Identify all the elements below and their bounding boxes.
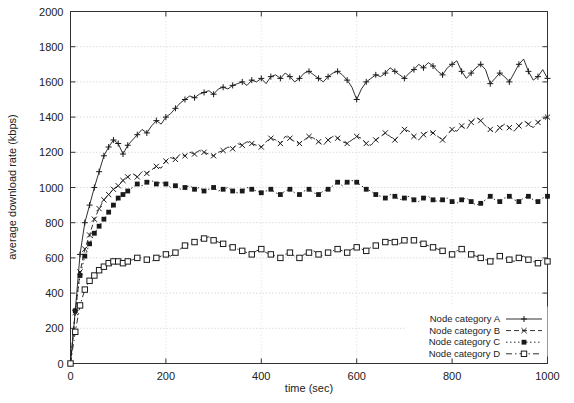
data-point-marker (297, 192, 302, 197)
data-point-marker (192, 187, 197, 192)
data-point-marker (278, 192, 283, 197)
x-tick-label: 1000 (535, 370, 559, 382)
data-point-marker (202, 189, 207, 194)
x-tick-label: 200 (157, 370, 175, 382)
data-point-marker (478, 201, 483, 206)
data-point-marker (287, 250, 292, 255)
data-point-marker (173, 250, 178, 255)
data-point-marker (536, 199, 541, 204)
legend-label-2: Node category B (429, 325, 500, 336)
data-point-marker (288, 187, 293, 192)
data-point-marker (249, 252, 254, 257)
legend-label-1: Node category A (430, 313, 501, 324)
x-tick-label: 800 (443, 370, 461, 382)
data-point-marker (325, 250, 330, 255)
y-tick-label: 200 (45, 322, 63, 334)
y-tick-label: 1400 (39, 111, 63, 123)
data-point-marker (354, 180, 359, 185)
data-point-marker (497, 199, 502, 204)
legend-sample-marker-4 (521, 351, 526, 356)
data-point-marker (278, 255, 283, 260)
y-tick-label: 800 (45, 217, 63, 229)
data-point-marker (468, 252, 473, 257)
legend-sample-marker-3 (522, 340, 527, 345)
data-point-marker (144, 180, 149, 185)
x-tick-label: 400 (252, 370, 270, 382)
data-point-marker (192, 239, 197, 244)
x-axis-title: time (sec) (285, 382, 333, 394)
data-point-marker (364, 187, 369, 192)
data-point-marker (344, 250, 349, 255)
data-point-marker (164, 182, 169, 187)
data-point-marker (411, 238, 416, 243)
data-point-marker (154, 255, 159, 260)
data-point-marker (430, 245, 435, 250)
data-point-marker (459, 246, 464, 251)
data-point-marker (488, 194, 493, 199)
data-point-marker (183, 185, 188, 190)
data-point-marker (516, 199, 521, 204)
data-point-marker (421, 196, 426, 201)
data-point-marker (392, 194, 397, 199)
data-point-marker (230, 245, 235, 250)
data-point-marker (73, 308, 78, 313)
data-point-marker (125, 259, 130, 264)
y-tick-label: 1000 (39, 182, 63, 194)
legend-label-4: Node category D (429, 348, 500, 359)
data-point-marker (121, 192, 126, 197)
data-point-marker (154, 182, 159, 187)
data-point-marker (307, 187, 312, 192)
data-point-marker (440, 248, 445, 253)
data-point-marker (268, 187, 273, 192)
data-point-marker (354, 245, 359, 250)
data-point-marker (335, 180, 340, 185)
data-point-marker (383, 196, 388, 201)
data-point-marker (230, 189, 235, 194)
x-tick-label: 600 (348, 370, 366, 382)
y-tick-label: 600 (45, 252, 63, 264)
data-point-marker (306, 250, 311, 255)
legend-label-3: Node category C (429, 336, 500, 347)
data-point-marker (182, 243, 187, 248)
data-point-marker (516, 255, 521, 260)
y-tick-label: 2000 (39, 6, 63, 18)
data-point-marker (82, 287, 87, 292)
chart-screenshot: 0200400600800100012001400160018002000 02… (0, 0, 574, 403)
data-point-marker (402, 196, 407, 201)
data-point-marker (106, 210, 111, 215)
data-point-marker (111, 203, 116, 208)
data-point-marker (545, 194, 550, 199)
data-point-marker (316, 192, 321, 197)
data-point-marker (488, 259, 493, 264)
data-point-marker (297, 255, 302, 260)
data-point-marker (87, 241, 92, 246)
data-point-marker (535, 260, 540, 265)
x-tick-label: 0 (67, 370, 73, 382)
y-axis-title: average download rate (kbps) (6, 114, 18, 260)
data-point-marker (373, 243, 378, 248)
data-point-marker (507, 194, 512, 199)
y-tick-label: 1600 (39, 76, 63, 88)
data-point-marker (421, 241, 426, 246)
data-point-marker (383, 239, 388, 244)
y-tick-label: 1800 (39, 41, 63, 53)
data-point-marker (345, 180, 350, 185)
y-tick-label: 1200 (39, 146, 63, 158)
y-tick-label: 0 (57, 358, 63, 370)
data-point-marker (259, 190, 264, 195)
data-point-marker (335, 246, 340, 251)
data-point-marker (526, 257, 531, 262)
data-point-marker (507, 257, 512, 262)
data-point-marker (392, 239, 397, 244)
data-point-marker (201, 236, 206, 241)
data-point-marker (116, 196, 121, 201)
data-point-marker (326, 187, 331, 192)
data-point-marker (478, 255, 483, 260)
data-point-marker (497, 253, 502, 258)
data-point-marker (459, 197, 464, 202)
data-point-marker (220, 241, 225, 246)
data-point-marker (526, 194, 531, 199)
data-point-marker (68, 361, 73, 366)
data-point-marker (73, 329, 78, 334)
data-point-marker (240, 248, 245, 253)
